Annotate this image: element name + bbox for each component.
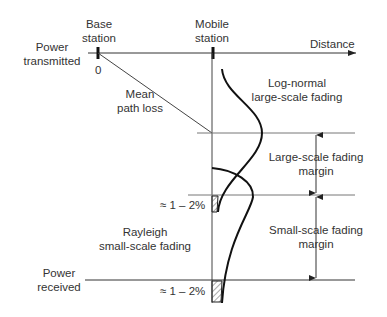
small-scale-margin-line1: Small-scale fading — [264, 223, 368, 237]
large-scale-margin-label: Large-scale fading margin — [264, 150, 368, 178]
rayleigh-label: Rayleigh small-scale fading — [93, 225, 197, 253]
outage-upper-label: ≈ 1 – 2% — [160, 198, 205, 212]
large-scale-margin-line2: margin — [264, 164, 368, 178]
mobile-station-line1: Mobile — [190, 17, 234, 31]
outage-lower-label: ≈ 1 – 2% — [160, 284, 205, 298]
power-transmitted-line2: transmitted — [18, 54, 86, 68]
small-scale-margin-line2: margin — [264, 237, 368, 251]
power-transmitted-line1: Power — [18, 40, 86, 54]
mobile-station-line2: station — [190, 31, 234, 45]
power-received-line1: Power — [34, 266, 84, 280]
power-received-label: Power received — [34, 266, 84, 294]
rayleigh-line1: Rayleigh — [93, 225, 197, 239]
outage-region-lower — [212, 281, 222, 302]
base-station-line1: Base — [78, 17, 120, 31]
distance-label: Distance — [310, 37, 355, 51]
mean-path-loss-label: Mean path loss — [112, 87, 168, 115]
rayleigh-line2: small-scale fading — [93, 239, 197, 253]
log-normal-line2: large-scale fading — [245, 90, 349, 104]
mean-path-loss-line2: path loss — [112, 101, 168, 115]
mean-path-loss-line1: Mean — [112, 87, 168, 101]
log-normal-line1: Log-normal — [245, 76, 349, 90]
power-received-line2: received — [34, 280, 84, 294]
origin-zero-label: 0 — [95, 63, 101, 77]
outage-region-upper — [212, 196, 218, 212]
mobile-station-label: Mobile station — [190, 17, 234, 45]
power-transmitted-label: Power transmitted — [18, 40, 86, 68]
large-scale-margin-line1: Large-scale fading — [264, 150, 368, 164]
log-normal-label: Log-normal large-scale fading — [245, 76, 349, 104]
small-scale-margin-label: Small-scale fading margin — [264, 223, 368, 251]
